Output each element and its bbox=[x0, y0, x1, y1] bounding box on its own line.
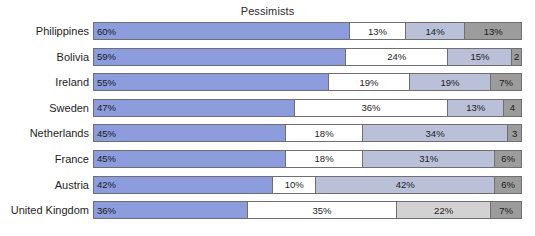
segment-value-label: 59% bbox=[97, 51, 116, 62]
bar-segment: 45% bbox=[94, 125, 286, 141]
bar-segment: 34% bbox=[363, 125, 508, 141]
segment-value-label: 36% bbox=[97, 205, 116, 216]
bar-segment: 7% bbox=[491, 202, 521, 218]
segment-value-label: 42% bbox=[97, 179, 116, 190]
bar-segment: 14% bbox=[406, 23, 466, 39]
segment-value-label: 45% bbox=[97, 153, 116, 164]
bar-segment: 36% bbox=[94, 202, 248, 218]
bar-segment: 31% bbox=[363, 151, 495, 167]
bar-segment: 7% bbox=[491, 74, 521, 90]
bar-segment: 13% bbox=[448, 100, 504, 116]
chart-row: United Kingdom36%35%22%7% bbox=[0, 201, 535, 219]
row-label-philippines: Philippines bbox=[0, 25, 93, 37]
chart-row: Ireland55%19%19%7% bbox=[0, 73, 535, 91]
segment-value-label: 15% bbox=[470, 51, 489, 62]
plot-area: Philippines60%13%14%13%Bolivia59%24%15%2… bbox=[0, 22, 535, 230]
segment-value-label: 35% bbox=[312, 205, 331, 216]
bar-segment: 24% bbox=[346, 49, 448, 65]
segment-value-label: 45% bbox=[97, 128, 116, 139]
bar-segment: 18% bbox=[286, 151, 363, 167]
bar-segment: 22% bbox=[397, 202, 491, 218]
segment-value-label: 2 bbox=[514, 51, 519, 62]
bar-track: 42%10%42%6% bbox=[93, 176, 522, 194]
segment-value-label: 22% bbox=[434, 205, 453, 216]
segment-value-label: 13% bbox=[484, 26, 503, 37]
bar-segment: 13% bbox=[465, 23, 521, 39]
bar-segment: 6% bbox=[495, 177, 521, 193]
row-label-united-kingdom: United Kingdom bbox=[0, 204, 93, 216]
bar-segment: 35% bbox=[248, 202, 397, 218]
bar-track: 45%18%31%6% bbox=[93, 150, 522, 168]
chart-row: Sweden47%36%13%4 bbox=[0, 99, 535, 117]
bar-segment: 55% bbox=[94, 74, 329, 90]
segment-value-label: 34% bbox=[426, 128, 445, 139]
stacked-bar-chart: Pessimists Philippines60%13%14%13%Bolivi… bbox=[0, 0, 535, 236]
segment-value-label: 6% bbox=[501, 179, 515, 190]
bar-track: 60%13%14%13% bbox=[93, 22, 522, 40]
segment-value-label: 18% bbox=[315, 153, 334, 164]
chart-row: Philippines60%13%14%13% bbox=[0, 22, 535, 40]
segment-value-label: 3 bbox=[512, 128, 517, 139]
row-label-netherlands: Netherlands bbox=[0, 127, 93, 139]
bar-segment: 6% bbox=[495, 151, 521, 167]
row-label-austria: Austria bbox=[0, 179, 93, 191]
segment-value-label: 60% bbox=[97, 26, 116, 37]
segment-value-label: 36% bbox=[362, 102, 381, 113]
bar-segment: 4 bbox=[504, 100, 521, 116]
chart-row: Austria42%10%42%6% bbox=[0, 176, 535, 194]
segment-value-label: 6% bbox=[501, 153, 515, 164]
bar-segment: 36% bbox=[295, 100, 449, 116]
bar-segment: 15% bbox=[448, 49, 512, 65]
bar-segment: 18% bbox=[286, 125, 363, 141]
chart-row: Bolivia59%24%15%2 bbox=[0, 48, 535, 66]
bar-segment: 45% bbox=[94, 151, 286, 167]
row-label-france: France bbox=[0, 153, 93, 165]
bar-segment: 60% bbox=[94, 23, 350, 39]
segment-value-label: 31% bbox=[419, 153, 438, 164]
segment-value-label: 19% bbox=[441, 77, 460, 88]
bar-segment: 42% bbox=[316, 177, 495, 193]
segment-value-label: 18% bbox=[315, 128, 334, 139]
bar-segment: 19% bbox=[410, 74, 491, 90]
bar-segment: 47% bbox=[94, 100, 295, 116]
chart-row: Netherlands45%18%34%3 bbox=[0, 124, 535, 142]
row-label-sweden: Sweden bbox=[0, 102, 93, 114]
bar-segment: 42% bbox=[94, 177, 273, 193]
segment-value-label: 19% bbox=[359, 77, 378, 88]
bar-track: 59%24%15%2 bbox=[93, 48, 522, 66]
bar-track: 47%36%13%4 bbox=[93, 99, 522, 117]
segment-value-label: 42% bbox=[396, 179, 415, 190]
bar-track: 45%18%34%3 bbox=[93, 124, 522, 142]
segment-value-label: 14% bbox=[426, 26, 445, 37]
segment-value-label: 10% bbox=[285, 179, 304, 190]
segment-value-label: 24% bbox=[387, 51, 406, 62]
bar-track: 55%19%19%7% bbox=[93, 73, 522, 91]
bar-segment: 3 bbox=[508, 125, 521, 141]
chart-title: Pessimists bbox=[0, 5, 535, 17]
bar-segment: 10% bbox=[273, 177, 316, 193]
segment-value-label: 4 bbox=[510, 102, 515, 113]
row-label-ireland: Ireland bbox=[0, 76, 93, 88]
segment-value-label: 7% bbox=[499, 205, 513, 216]
segment-value-label: 13% bbox=[368, 26, 387, 37]
bar-segment: 59% bbox=[94, 49, 346, 65]
row-label-bolivia: Bolivia bbox=[0, 51, 93, 63]
segment-value-label: 47% bbox=[97, 102, 116, 113]
bar-track: 36%35%22%7% bbox=[93, 201, 522, 219]
bar-segment: 19% bbox=[329, 74, 410, 90]
chart-row: France45%18%31%6% bbox=[0, 150, 535, 168]
segment-value-label: 55% bbox=[97, 77, 116, 88]
segment-value-label: 13% bbox=[466, 102, 485, 113]
segment-value-label: 7% bbox=[499, 77, 513, 88]
bar-segment: 2 bbox=[512, 49, 521, 65]
bar-segment: 13% bbox=[350, 23, 406, 39]
